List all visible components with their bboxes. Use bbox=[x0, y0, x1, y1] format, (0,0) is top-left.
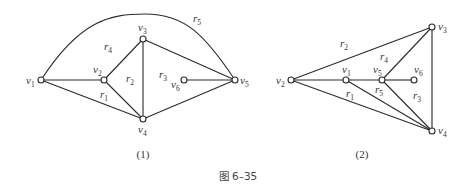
vertex-label-v1: v1 bbox=[26, 74, 35, 89]
face-label-r4: r4 bbox=[380, 50, 388, 65]
edge-v2-v4 bbox=[104, 80, 143, 119]
vertex-label-v2: v2 bbox=[276, 74, 285, 89]
vertex-label-v5: v5 bbox=[373, 63, 382, 78]
figure-canvas: v1v2v3v4v5v6r1r2r3r4r5(1) v2v1v5v6v3v4r1… bbox=[0, 0, 476, 187]
face-label-r4: r4 bbox=[104, 40, 112, 55]
edge-v2-v4 bbox=[291, 80, 432, 131]
face-label-r2: r2 bbox=[126, 72, 134, 87]
face-label-r1: r1 bbox=[346, 87, 354, 102]
vertex-v5 bbox=[232, 77, 238, 83]
vertex-label-v4: v4 bbox=[138, 123, 147, 138]
vertex-label-v4: v4 bbox=[438, 124, 447, 139]
face-label-r5: r5 bbox=[375, 83, 383, 98]
face-label-r2: r2 bbox=[340, 37, 348, 52]
edge-v1-v4 bbox=[41, 80, 143, 119]
vertex-label-v3: v3 bbox=[438, 20, 447, 35]
figure-caption: 图 6–35 bbox=[219, 170, 258, 182]
graph-1: v1v2v3v4v5v6r1r2r3r4r5(1) bbox=[26, 12, 249, 161]
edge-v5-v3 bbox=[382, 27, 432, 80]
vertex-v3 bbox=[140, 36, 146, 42]
vertex-label-v1: v1 bbox=[342, 63, 351, 78]
vertex-v2 bbox=[101, 77, 107, 83]
edge-v2-v3 bbox=[291, 27, 432, 80]
graph-2: v2v1v5v6v3v4r1r2r3r4r5(2) bbox=[276, 20, 447, 161]
subfigure-caption: (2) bbox=[356, 148, 369, 161]
face-label-r1: r1 bbox=[100, 88, 108, 103]
vertex-v3 bbox=[429, 24, 435, 30]
subfigure-caption: (1) bbox=[137, 148, 150, 161]
vertex-label-v5: v5 bbox=[240, 74, 249, 89]
vertex-label-v2: v2 bbox=[93, 63, 102, 78]
vertex-v6 bbox=[411, 77, 417, 83]
face-label-r3: r3 bbox=[413, 89, 421, 104]
vertex-v1 bbox=[38, 77, 44, 83]
vertex-v4 bbox=[140, 116, 146, 122]
vertex-v2 bbox=[288, 77, 294, 83]
vertex-label-v6: v6 bbox=[414, 63, 423, 78]
vertex-label-v6: v6 bbox=[171, 78, 180, 93]
vertex-label-v3: v3 bbox=[138, 21, 147, 36]
vertex-v6 bbox=[181, 77, 187, 83]
vertex-v4 bbox=[429, 128, 435, 134]
face-label-r5: r5 bbox=[193, 12, 201, 27]
edge-v4-v5 bbox=[143, 80, 235, 119]
face-label-r3: r3 bbox=[159, 68, 167, 83]
